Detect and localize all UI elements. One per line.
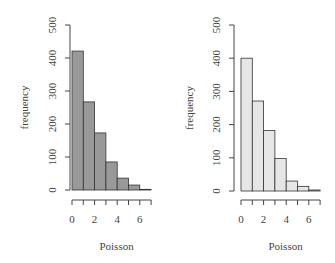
x-axis: 0246Poisson [238,200,320,252]
histogram-bar [95,133,106,190]
histogram-bar [117,178,128,190]
y-tick-label: 0 [46,187,58,193]
histogram-bar [286,181,297,191]
y-tick-label: 300 [210,83,222,100]
x-axis-label: Poisson [99,240,134,252]
histogram-bar [241,58,252,191]
x-tick-label: 6 [137,213,143,225]
y-axis: 0100200300400500frequency [183,16,234,194]
bars [72,51,151,190]
x-tick-label: 2 [261,213,267,225]
histogram-bar [129,185,140,190]
x-tick-label: 0 [69,213,75,225]
histogram-bar [264,131,275,191]
x-axis: 0246Poisson [69,200,151,252]
histogram-bar [309,190,320,191]
histogram-bar [83,102,94,190]
y-tick-label: 400 [210,49,222,66]
y-tick-label: 400 [46,49,58,66]
x-tick-label: 4 [283,213,289,225]
y-tick-label: 300 [46,82,58,99]
bars [241,58,320,191]
x-tick-label: 0 [238,213,244,225]
y-tick-label: 100 [210,149,222,166]
y-tick-label: 200 [46,115,58,132]
histogram-bar [275,158,286,191]
histogram-left-plot: 0100200300400500frequency0246Poisson [0,0,167,263]
y-tick-label: 500 [46,16,58,33]
histogram-bar [106,162,117,190]
x-tick-label: 6 [306,213,312,225]
x-tick-label: 2 [92,213,98,225]
x-axis-label: Poisson [268,240,303,252]
histogram-left: 0100200300400500frequency0246Poisson [0,0,167,263]
x-tick-label: 4 [114,213,120,225]
y-tick-label: 100 [46,148,58,165]
histogram-right: 0100200300400500frequency0246Poisson [165,0,332,263]
histogram-bar [72,51,83,190]
y-axis-label: frequency [18,85,30,129]
y-tick-label: 500 [210,16,222,33]
histogram-bar [252,101,263,191]
histogram-bar [140,189,151,190]
histogram-right-plot: 0100200300400500frequency0246Poisson [165,0,335,263]
y-axis: 0100200300400500frequency [18,16,70,193]
y-tick-label: 200 [210,116,222,133]
y-tick-label: 0 [210,188,222,194]
y-axis-label: frequency [183,86,195,130]
histogram-bar [298,186,309,191]
